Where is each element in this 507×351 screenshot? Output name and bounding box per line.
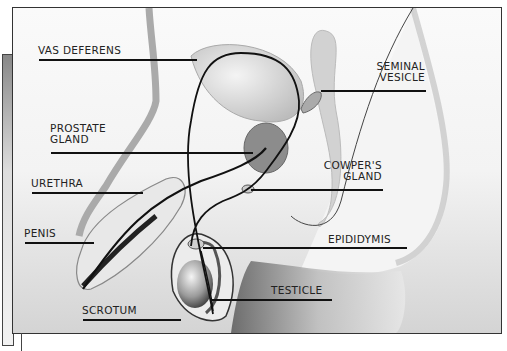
label-prostate-gland: PROSTATE GLAND xyxy=(50,123,106,145)
label-urethra: URETHRA xyxy=(31,178,83,189)
label-cowpers-gland: COWPER'S GLAND xyxy=(313,160,382,182)
bladder xyxy=(191,45,304,122)
label-penis: PENIS xyxy=(24,228,56,239)
label-scrotum: SCROTUM xyxy=(82,305,137,316)
label-testicle: TESTICLE xyxy=(271,285,322,296)
label-seminal-vesicle: SEMINAL VESICLE xyxy=(358,61,425,83)
frame-tick xyxy=(21,333,22,351)
label-vas-deferens: VAS DEFERENS xyxy=(38,45,121,56)
diagram-frame xyxy=(12,7,502,334)
anatomy-illustration xyxy=(13,8,501,333)
rectum xyxy=(311,30,341,226)
label-epididymis: EPIDIDYMIS xyxy=(328,234,391,245)
